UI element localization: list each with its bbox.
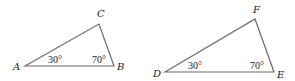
triangle-abc: A B C 30° 70° [12,8,124,72]
angle-label-a: 30° [48,54,62,65]
similar-triangles-diagram: A B C 30° 70° D E F 30° 70° [0,0,295,81]
angle-label-b: 70° [92,54,106,65]
angle-label-e: 70° [250,60,264,71]
vertex-label-d: D [152,68,161,79]
vertex-label-a: A [12,61,20,72]
vertex-label-c: C [97,8,105,19]
vertex-label-b: B [116,61,124,72]
vertex-label-e: E [276,69,285,80]
vertex-label-f: F [252,4,261,15]
angle-label-d: 30° [188,60,202,71]
triangle-def: D E F 30° 70° [152,4,285,80]
